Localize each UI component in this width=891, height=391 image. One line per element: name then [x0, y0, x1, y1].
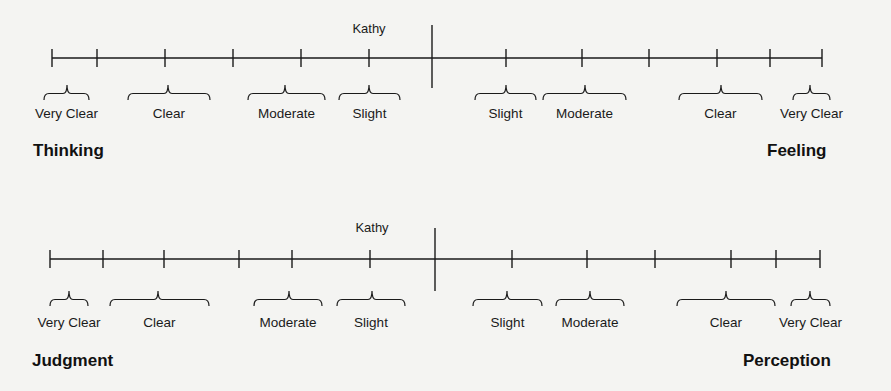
brace-icon [44, 85, 89, 100]
judgment-perception-scale: KathyVery ClearClearModerateSlightSlight… [32, 220, 843, 370]
person-marker-label: Kathy [352, 21, 386, 36]
clarity-category-label: Moderate [561, 315, 618, 330]
clarity-category-label: Moderate [259, 315, 316, 330]
thinking-feeling-scale: KathyVery ClearClearModerateSlightSlight… [33, 21, 844, 160]
clarity-category-label: Moderate [258, 106, 315, 121]
preference-clarity-diagram: KathyVery ClearClearModerateSlightSlight… [0, 0, 891, 391]
brace-icon [248, 85, 325, 100]
brace-icon [793, 85, 830, 100]
brace-icon [556, 291, 624, 306]
brace-icon [543, 85, 626, 100]
clarity-category-label: Slight [353, 106, 387, 121]
clarity-category-label: Moderate [556, 106, 613, 121]
left-pole-label: Thinking [33, 141, 104, 160]
clarity-category-label: Very Clear [779, 315, 843, 330]
brace-icon [679, 85, 762, 100]
clarity-category-label: Clear [153, 106, 186, 121]
brace-icon [50, 291, 88, 306]
clarity-category-label: Very Clear [35, 106, 99, 121]
brace-icon [254, 291, 322, 306]
brace-icon [473, 291, 542, 306]
clarity-category-label: Clear [710, 315, 743, 330]
left-pole-label: Judgment [32, 351, 114, 370]
right-pole-label: Perception [743, 351, 831, 370]
brace-icon [339, 85, 400, 100]
brace-icon [475, 85, 536, 100]
person-marker-label: Kathy [355, 220, 389, 235]
clarity-category-label: Very Clear [37, 315, 101, 330]
clarity-category-label: Slight [354, 315, 388, 330]
brace-icon [677, 291, 775, 306]
brace-icon [337, 291, 405, 306]
clarity-category-label: Slight [489, 106, 523, 121]
clarity-category-label: Clear [143, 315, 176, 330]
clarity-category-label: Very Clear [780, 106, 844, 121]
clarity-category-label: Slight [491, 315, 525, 330]
clarity-category-label: Clear [704, 106, 737, 121]
right-pole-label: Feeling [767, 141, 827, 160]
brace-icon [791, 291, 830, 306]
brace-icon [110, 291, 209, 306]
brace-icon [128, 85, 210, 100]
